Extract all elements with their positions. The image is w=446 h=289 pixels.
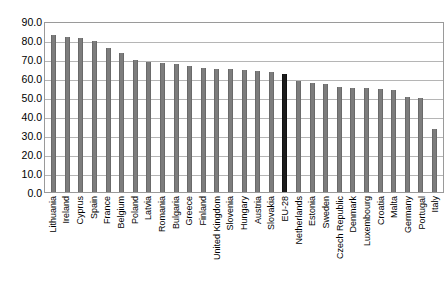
- bar: [65, 37, 70, 192]
- x-tick: Malta: [387, 194, 401, 289]
- bar-slot: [142, 23, 156, 192]
- x-tick-label: EU-28: [280, 196, 289, 222]
- x-tick-label: Latvia: [144, 196, 153, 220]
- bar-slot: [319, 23, 333, 192]
- x-tick: Germany: [401, 194, 415, 289]
- x-tick: Slovenia: [224, 194, 238, 289]
- bar: [228, 69, 233, 192]
- y-tick-label: 10.0: [4, 169, 42, 180]
- y-tick-label: 0.0: [4, 188, 42, 199]
- x-tick: France: [101, 194, 115, 289]
- x-tick-label: United Kingdom: [212, 196, 221, 260]
- x-tick: Slovakia: [265, 194, 279, 289]
- bar: [378, 89, 383, 192]
- bar-slot: [197, 23, 211, 192]
- x-tick-label: Ireland: [62, 196, 71, 224]
- x-tick: United Kingdom: [210, 194, 224, 289]
- x-tick: Cyprus: [73, 194, 87, 289]
- x-tick-label: Estonia: [308, 196, 317, 226]
- x-tick: Bulgaria: [169, 194, 183, 289]
- bar-slot: [360, 23, 374, 192]
- x-tick-label: Czech Republic: [335, 196, 344, 259]
- bar: [296, 81, 301, 192]
- bar: [418, 98, 423, 192]
- bar: [174, 64, 179, 192]
- x-tick: Portugal: [415, 194, 429, 289]
- x-tick: Lithuania: [46, 194, 60, 289]
- y-tick-label: 60.0: [4, 74, 42, 85]
- bar: [255, 71, 260, 192]
- bar-slot: [400, 23, 414, 192]
- bar-slot: [47, 23, 61, 192]
- x-tick-label: Austria: [253, 196, 262, 224]
- y-tick-label: 30.0: [4, 131, 42, 142]
- bar: [364, 88, 369, 192]
- bar: [242, 70, 247, 192]
- bar: [350, 88, 355, 193]
- x-tick-label: Netherlands: [294, 196, 303, 245]
- bar: [323, 84, 328, 192]
- x-tick: Poland: [128, 194, 142, 289]
- bar-slot: [251, 23, 265, 192]
- x-tick: EU-28: [278, 194, 292, 289]
- x-tick-label: Germany: [403, 196, 412, 233]
- bar-slot: [387, 23, 401, 192]
- bar-slot: [88, 23, 102, 192]
- bar: [432, 129, 437, 192]
- bar-slot: [332, 23, 346, 192]
- bar-slot: [305, 23, 319, 192]
- bar-series: [45, 23, 443, 192]
- bar-slot: [74, 23, 88, 192]
- bar-slot: [61, 23, 75, 192]
- bar-slot: [210, 23, 224, 192]
- x-tick-label: Slovenia: [226, 196, 235, 231]
- x-tick-label: Portugal: [417, 196, 426, 230]
- bar-chart: 90.080.070.060.050.040.030.020.010.00.0 …: [0, 0, 446, 289]
- x-tick-label: Spain: [89, 196, 98, 219]
- bar: [337, 87, 342, 192]
- bar-slot: [237, 23, 251, 192]
- bar: [146, 62, 151, 192]
- plot-area: [44, 22, 444, 193]
- x-tick-label: Luxembourg: [362, 196, 371, 246]
- bar: [201, 68, 206, 192]
- bar-slot: [414, 23, 428, 192]
- x-tick-label: Finland: [199, 196, 208, 226]
- bar-slot: [373, 23, 387, 192]
- x-tick: Austria: [251, 194, 265, 289]
- x-tick: Italy: [428, 194, 442, 289]
- bar-slot: [156, 23, 170, 192]
- bar-slot: [101, 23, 115, 192]
- bar: [187, 66, 192, 192]
- bar-slot: [224, 23, 238, 192]
- y-tick-label: 20.0: [4, 150, 42, 161]
- bar-slot: [265, 23, 279, 192]
- y-tick-label: 90.0: [4, 17, 42, 28]
- bar: [133, 60, 138, 192]
- x-tick: Netherlands: [292, 194, 306, 289]
- x-tick: Luxembourg: [360, 194, 374, 289]
- x-tick-label: Hungary: [240, 196, 249, 230]
- x-tick: Latvia: [142, 194, 156, 289]
- x-tick-label: Malta: [390, 196, 399, 218]
- bar: [92, 41, 97, 192]
- x-tick-label: Croatia: [376, 196, 385, 225]
- x-tick-label: Cyprus: [76, 196, 85, 225]
- y-axis: 90.080.070.060.050.040.030.020.010.00.0: [0, 0, 42, 289]
- x-tick-label: Lithuania: [48, 196, 57, 233]
- x-tick: Czech Republic: [333, 194, 347, 289]
- x-tick: Estonia: [305, 194, 319, 289]
- x-tick-label: Denmark: [349, 196, 358, 233]
- bar: [282, 74, 287, 192]
- bar: [391, 90, 396, 192]
- bar-slot: [129, 23, 143, 192]
- x-tick: Hungary: [237, 194, 251, 289]
- bar-slot: [428, 23, 442, 192]
- y-tick-label: 70.0: [4, 55, 42, 66]
- bar-slot: [183, 23, 197, 192]
- y-tick-label: 80.0: [4, 36, 42, 47]
- x-tick: Spain: [87, 194, 101, 289]
- x-tick: Croatia: [374, 194, 388, 289]
- x-tick: Belgium: [114, 194, 128, 289]
- x-tick-label: Romania: [158, 196, 167, 232]
